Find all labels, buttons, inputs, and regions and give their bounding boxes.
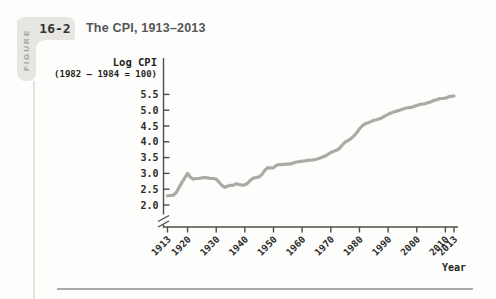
y-tick-label: 3.0 [140,168,158,179]
x-tick-label: 1990 [370,233,394,257]
cpi-line-chart: 2.02.53.03.54.04.55.05.51913192019301940… [0,0,496,299]
x-tick-label: 1980 [341,233,365,257]
log-cpi-series-line [168,96,455,196]
y-axis-title-line1: Log CPI [53,56,157,68]
y-tick-label: 4.5 [140,121,158,132]
y-tick-label: 4.0 [140,136,158,147]
x-tick-label: 1960 [284,233,308,257]
x-tick-label: 1930 [198,233,222,257]
x-tick-label: 1970 [312,233,336,257]
x-tick-label: 1940 [226,233,250,257]
x-axis-title: Year [428,262,466,273]
y-tick-label: 5.0 [140,105,158,116]
y-tick-label: 2.5 [140,184,158,195]
y-tick-label: 5.5 [140,89,158,100]
figure-panel: FIGURE 16-2 The CPI, 1913–2013 2.02.53.0… [0,0,496,299]
y-tick-label: 2.0 [140,200,158,211]
y-axis-title: Log CPI (1982 – 1984 = 100) [53,56,157,80]
x-tick-label: 1913 [149,233,173,257]
x-tick-label: 2000 [398,233,422,257]
y-axis-title-line2: (1982 – 1984 = 100) [53,68,157,80]
x-tick-label: 1920 [169,233,193,257]
y-tick-label: 3.5 [140,152,158,163]
x-tick-label: 1950 [255,233,279,257]
